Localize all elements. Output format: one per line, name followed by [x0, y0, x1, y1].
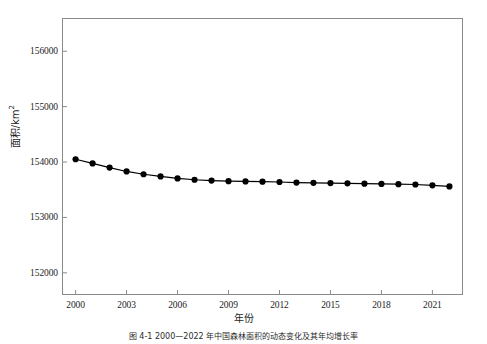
chart-plot-area — [62, 18, 463, 295]
data-point-marker — [327, 180, 333, 186]
data-point-marker — [123, 168, 129, 174]
data-point-marker — [259, 179, 265, 185]
figure-caption: 图 4-1 2000—2022 年中国森林面积的动态变化及其年均增长率 — [0, 331, 487, 342]
x-axis-tick-labels: 20002003200620092012201520182021 — [0, 299, 487, 313]
data-point-marker — [412, 181, 418, 187]
x-axis-title: 年份 — [0, 313, 487, 325]
x-axis-tick-marks — [76, 290, 433, 295]
data-point-marker — [293, 179, 299, 185]
y-axis-tick-marks — [62, 51, 67, 273]
data-point-marker — [225, 178, 231, 184]
y-axis-tick-label: 152000 — [2, 268, 58, 278]
data-point-marker — [106, 164, 112, 170]
y-axis-tick-labels: 152000153000154000155000156000 — [0, 0, 58, 344]
x-axis-tick-label: 2000 — [54, 299, 98, 311]
x-axis-tick-label: 2006 — [156, 299, 200, 311]
data-point-marker — [378, 181, 384, 187]
data-point-marker — [395, 181, 401, 187]
data-point-marker — [310, 180, 316, 186]
y-axis-tick-label: 153000 — [2, 212, 58, 222]
data-point-marker — [157, 173, 163, 179]
data-point-marker — [208, 178, 214, 184]
x-axis-tick-label: 2009 — [207, 299, 251, 311]
data-point-marker — [446, 183, 452, 189]
data-point-marker — [276, 179, 282, 185]
data-point-marker — [344, 180, 350, 186]
x-axis-tick-label: 2012 — [257, 299, 301, 311]
figure-container: 152000153000154000155000156000 200020032… — [0, 0, 487, 344]
x-axis-tick-label: 2021 — [410, 299, 454, 311]
data-point-marker — [89, 160, 95, 166]
data-point-marker — [191, 177, 197, 183]
data-point-marker — [242, 178, 248, 184]
y-axis-title-exponent: 2 — [8, 105, 16, 109]
x-axis-tick-label: 2015 — [308, 299, 352, 311]
data-point-marker — [174, 175, 180, 181]
y-axis-title: 面积/km2 — [7, 87, 20, 167]
data-point-marker — [429, 182, 435, 188]
data-point-marker — [140, 171, 146, 177]
y-axis-tick-label: 156000 — [2, 46, 58, 56]
data-point-marker — [72, 156, 78, 162]
data-point-marker — [361, 181, 367, 187]
series-markers — [72, 156, 452, 189]
x-axis-tick-label: 2003 — [105, 299, 149, 311]
y-axis-title-text: 面积/km — [10, 109, 21, 148]
x-axis-tick-label: 2018 — [359, 299, 403, 311]
